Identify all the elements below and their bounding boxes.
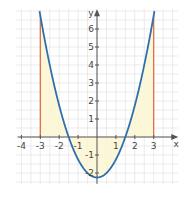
x-tick-label: -2 <box>55 141 64 151</box>
y-axis-arrow <box>94 9 100 16</box>
y-tick-label: 5 <box>88 42 94 52</box>
y-tick-label: -1 <box>85 150 94 160</box>
x-tick-label: -4 <box>17 141 26 151</box>
y-tick-label: 4 <box>88 60 94 70</box>
x-tick-label: 1 <box>113 141 119 151</box>
x-tick-label: -1 <box>74 141 83 151</box>
y-tick-label: -2 <box>85 168 94 178</box>
y-tick-label: 2 <box>88 96 94 106</box>
y-tick-label: 1 <box>88 114 94 124</box>
y-tick-label: 6 <box>88 24 94 34</box>
x-tick-label: -3 <box>36 141 45 151</box>
parabola-chart: -4-3-2-1123-2-1123456xy <box>0 0 184 198</box>
x-axis-label: x <box>174 139 180 149</box>
y-tick-label: 3 <box>88 78 94 88</box>
x-tick-label: 2 <box>132 141 138 151</box>
y-axis-label: y <box>88 8 94 18</box>
x-tick-label: 3 <box>151 141 157 151</box>
